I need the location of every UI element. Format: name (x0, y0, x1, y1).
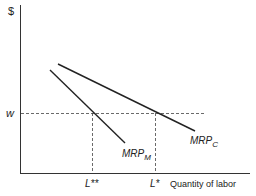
l-double-star-label: L** (85, 178, 99, 189)
wage-label: w (6, 107, 15, 119)
mrp-c-main: MRP (190, 135, 213, 146)
mrp-c-label: MRPC (190, 135, 218, 149)
mrp-c-sub: C (212, 140, 218, 149)
mrp-m-curve (50, 70, 125, 143)
y-axis-label: $ (8, 5, 14, 17)
chart: $ w L** L* Quantity of labor MRPC MRPM (0, 0, 256, 196)
l-star-label: L* (150, 178, 161, 189)
x-axis-label: Quantity of labor (170, 179, 236, 189)
mrp-m-label: MRPM (122, 148, 151, 162)
mrp-m-sub: M (144, 153, 151, 162)
mrp-m-main: MRP (122, 148, 145, 159)
